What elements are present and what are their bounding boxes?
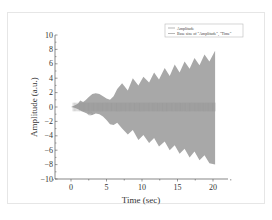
chart-canvas: 1086420−2−4−6−8−1005101520 Time (sec) Am… [0,0,272,220]
x-tick-label: 5 [105,183,109,192]
y-tick-label: −6 [44,146,53,155]
plot-area [71,51,215,165]
y-axis-title: Amplitude (a.u.) [29,77,39,137]
y-tick-label: 2 [49,88,53,97]
x-tick-label: 20 [209,183,217,192]
legend: Amplitude Base sine of "Amplitude", "Tim… [165,24,243,37]
y-tick-label: −10 [40,175,53,184]
y-tick-label: −4 [44,131,53,140]
amplitude-envelope [71,51,215,165]
y-tick-label: 10 [45,31,53,40]
x-tick-label: 0 [69,183,73,192]
y-tick-label: 6 [49,59,53,68]
x-tick-label: 15 [174,183,182,192]
y-tick-label: 4 [49,74,53,83]
y-tick-label: 8 [49,45,53,54]
y-tick-label: 0 [49,103,53,112]
x-tick-label: 10 [138,183,146,192]
legend-label-amplitude: Amplitude [177,26,194,31]
y-tick-label: −8 [44,160,53,169]
y-tick-label: −2 [44,117,53,126]
x-axis-title: Time (sec) [122,195,160,205]
